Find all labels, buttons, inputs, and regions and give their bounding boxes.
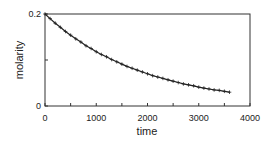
data-point-plus-marker: [212, 88, 216, 92]
plot-frame: [45, 14, 250, 106]
data-series: [43, 12, 231, 94]
data-point-plus-marker: [192, 84, 196, 88]
x-axis-label: time: [137, 125, 158, 137]
y-tick-label: 0.2: [28, 9, 41, 19]
data-point-plus-marker: [151, 74, 155, 78]
data-point-plus-marker: [156, 75, 160, 79]
y-axis-label: molarity: [13, 40, 25, 79]
data-point-plus-marker: [197, 85, 201, 89]
data-point-plus-marker: [146, 72, 150, 76]
data-point-plus-marker: [207, 87, 211, 91]
data-point-plus-marker: [135, 68, 139, 72]
y-tick-label: 0: [36, 101, 41, 111]
data-point-plus-marker: [141, 70, 145, 74]
x-tick-label: 2000: [137, 113, 157, 123]
data-point-plus-marker: [161, 77, 165, 81]
data-point-plus-marker: [223, 89, 227, 93]
data-point-plus-marker: [228, 90, 232, 94]
x-tick-label: 0: [42, 113, 47, 123]
plot-area-border: [45, 14, 250, 106]
data-point-plus-marker: [176, 81, 180, 85]
data-point-plus-marker: [130, 66, 134, 70]
data-point-plus-marker: [182, 82, 186, 86]
series-line: [45, 14, 230, 92]
data-point-plus-marker: [202, 86, 206, 90]
x-tick-label: 4000: [240, 113, 260, 123]
data-point-plus-marker: [217, 89, 221, 93]
data-point-plus-marker: [166, 78, 170, 82]
x-tick-label: 1000: [86, 113, 106, 123]
data-point-plus-marker: [171, 79, 175, 83]
molarity-vs-time-chart: 01000200030004000 00.2 time molarity: [0, 0, 267, 145]
x-tick-label: 3000: [189, 113, 209, 123]
data-point-plus-marker: [187, 83, 191, 87]
